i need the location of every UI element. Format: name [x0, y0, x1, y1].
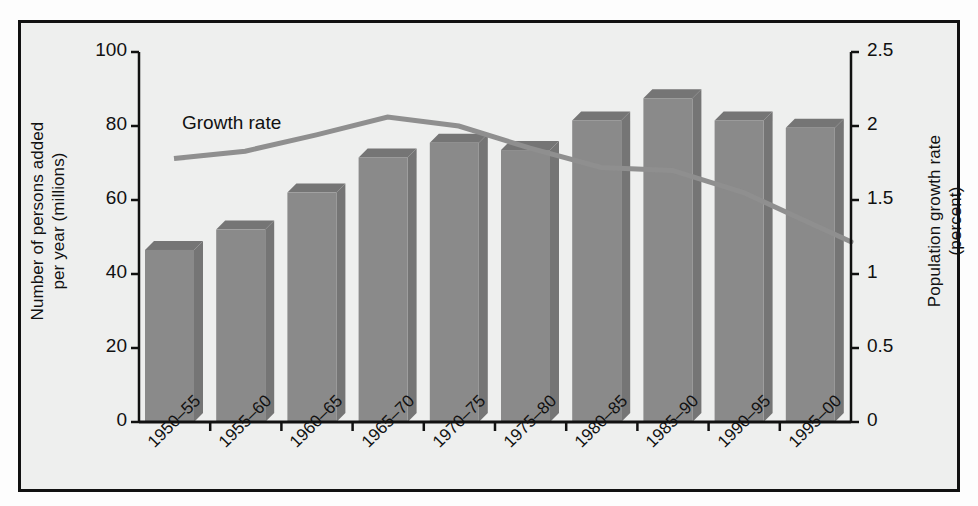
y-axis-right-tick-label: 2 [867, 113, 925, 135]
bar-1975-80 [501, 141, 559, 422]
y-axis-right-tick-label: 1 [867, 261, 925, 283]
bar-1965-70 [359, 148, 417, 422]
bar-1995-00 [786, 119, 844, 422]
y-axis-left-tick-label: 40 [69, 261, 127, 283]
bar-1990-95 [715, 111, 773, 422]
y-axis-right-tick-label: 1.5 [867, 187, 925, 209]
y-axis-left-tick-label: 100 [69, 39, 127, 61]
bar-1955-60 [216, 221, 274, 422]
y-axis-left-tick-label: 60 [69, 187, 127, 209]
y-axis-right-tick-label: 2.5 [867, 39, 925, 61]
plot-area [0, 0, 978, 506]
bar-1970-75 [430, 134, 488, 422]
bar-1960-65 [287, 184, 345, 422]
y-axis-right-tick-label: 0 [867, 409, 925, 431]
figure-canvas: Number of persons added per year (millio… [0, 0, 978, 506]
bar-1985-90 [643, 89, 701, 422]
y-axis-left-tick-label: 80 [69, 113, 127, 135]
y-axis-left-tick-label: 20 [69, 335, 127, 357]
y-axis-left-tick-label: 0 [69, 409, 127, 431]
y-axis-right-tick-label: 0.5 [867, 335, 925, 357]
bar-1980-85 [572, 111, 630, 422]
